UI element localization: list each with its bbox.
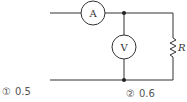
ammeter-label: A [88, 8, 97, 19]
resistor-zigzag [170, 38, 176, 57]
resistor-label: R [177, 42, 186, 53]
junction-top-dot [122, 11, 126, 15]
choice-1-value: 0.5 [15, 86, 31, 97]
junction-bottom-dot [122, 78, 126, 82]
choice-1[interactable]: ①0.5 [2, 86, 31, 97]
voltmeter-label: V [119, 42, 128, 53]
choice-1-marker: ① [2, 86, 11, 97]
choice-2-value: 0.6 [139, 88, 155, 99]
choice-2-marker: ② [126, 88, 135, 99]
choice-2[interactable]: ②0.6 [126, 88, 155, 99]
